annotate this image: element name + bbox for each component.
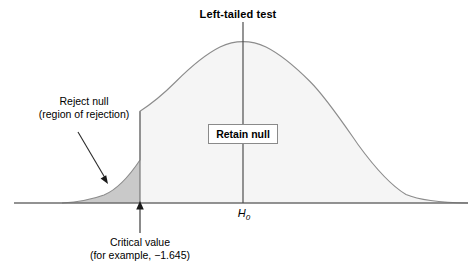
critical-value-line-1: Critical value xyxy=(110,236,170,248)
rejection-region-area xyxy=(62,111,140,203)
retain-null-label: Retain null xyxy=(216,128,270,140)
h0-symbol: H xyxy=(238,207,246,219)
h0-axis-label: H0 xyxy=(218,207,270,223)
reject-null-pointer-line xyxy=(78,132,105,177)
figure-canvas: Left-tailed test Reject null (region of … xyxy=(0,0,476,279)
reject-null-line-2: (region of rejection) xyxy=(39,108,129,120)
retain-null-box: Retain null xyxy=(208,124,278,144)
retain-region-area xyxy=(140,42,468,203)
reject-null-arrowhead-icon xyxy=(101,175,108,184)
critical-value-line-2: (for example, −1.645) xyxy=(90,249,190,261)
reject-null-annotation: Reject null (region of rejection) xyxy=(14,95,154,121)
chart-title: Left-tailed test xyxy=(0,8,476,21)
critical-value-annotation: Critical value (for example, −1.645) xyxy=(62,236,218,262)
h0-subscript: 0 xyxy=(246,213,250,222)
reject-null-line-1: Reject null xyxy=(59,95,108,107)
